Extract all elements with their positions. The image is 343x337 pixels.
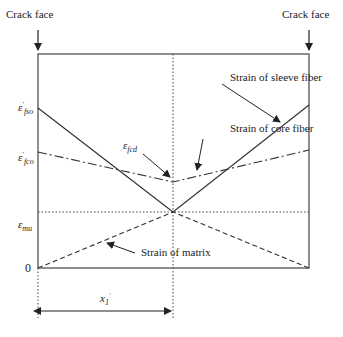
- core-fiber-pointer: [197, 139, 203, 170]
- core-fiber-label: Strain of core fiber: [230, 123, 313, 134]
- efso-axis-label: ε′fso: [18, 101, 33, 116]
- crack-face-left-label: Crack face: [6, 9, 53, 20]
- matrix-label: Strain of matrix: [141, 247, 211, 258]
- diagram-canvas: [0, 0, 343, 337]
- emu-axis-label: εmu: [18, 219, 32, 233]
- efcd-label: εfcd: [123, 140, 137, 154]
- efcd-pointer: [143, 154, 170, 177]
- zero-axis-label: 0: [25, 262, 31, 274]
- crack-face-right-label: Crack face: [282, 9, 329, 20]
- matrix-pointer: [107, 243, 135, 253]
- sleeve-fiber-pointer: [222, 84, 280, 122]
- x1-dimension-label: x1′: [100, 292, 110, 307]
- efco-axis-label: ε′fco: [18, 151, 34, 166]
- sleeve-fiber-label: Strain of sleeve fiber: [230, 72, 322, 83]
- strain-distribution-diagram: Crack face Crack face Strain of sleeve f…: [0, 0, 343, 337]
